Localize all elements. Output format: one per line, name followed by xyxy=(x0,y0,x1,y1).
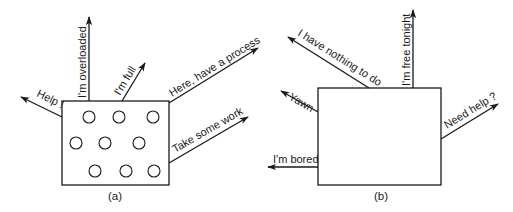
need-help-message: Need help ? xyxy=(441,89,499,139)
full-message: I'm full xyxy=(111,63,145,101)
panel-a-overloaded-node: Help ! I'm overloaded I'm full Here, hav… xyxy=(21,17,262,202)
nothing-to-do-message: I have nothing to do xyxy=(288,27,384,89)
load-balancing-diagram: Help ! I'm overloaded I'm full Here, hav… xyxy=(0,0,513,212)
caption-a: (a) xyxy=(108,190,122,202)
take-work-label: Take some work xyxy=(170,104,245,154)
arrow-icon xyxy=(169,48,258,103)
help-label: Help ! xyxy=(35,87,66,110)
caption-b: (b) xyxy=(374,190,388,202)
process-icon xyxy=(147,111,159,123)
process-icon xyxy=(133,137,145,149)
have-process-message: Here, have a process xyxy=(167,33,263,103)
nothing-to-do-label: I have nothing to do xyxy=(296,27,384,89)
need-help-label: Need help ? xyxy=(442,89,499,130)
process-icon xyxy=(99,137,111,149)
process-circles xyxy=(70,111,160,177)
free-tonight-message: I'm free tonight xyxy=(400,10,413,88)
process-icon xyxy=(120,165,132,177)
free-tonight-label: I'm free tonight xyxy=(400,14,412,86)
yawn-label: Yawn xyxy=(287,90,316,114)
process-icon xyxy=(113,111,125,123)
bored-message: I'm bored xyxy=(268,153,319,167)
take-work-message: Take some work xyxy=(169,104,248,163)
yawn-message: Yawn xyxy=(281,90,318,114)
process-icon xyxy=(89,165,101,177)
overloaded-message: I'm overloaded xyxy=(76,17,89,101)
panel-b-underloaded-node: I have nothing to do I'm free tonight Ya… xyxy=(268,10,499,202)
process-icon xyxy=(148,165,160,177)
bored-label: I'm bored xyxy=(273,153,319,165)
node-box-b xyxy=(318,88,441,185)
node-box-a xyxy=(62,101,169,185)
help-message: Help ! xyxy=(21,87,66,117)
process-icon xyxy=(83,111,95,123)
process-icon xyxy=(70,137,82,149)
overloaded-label: I'm overloaded xyxy=(76,26,88,98)
have-process-label: Here, have a process xyxy=(167,33,263,98)
